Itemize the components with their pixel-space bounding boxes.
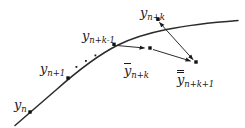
- diagram-canvas: [0, 0, 245, 128]
- label-ybar-n-plus-k: yn+k: [124, 62, 149, 78]
- point-y-n-plus-1: [66, 76, 69, 79]
- trajectory-diagram: yn yn+1 yn+k-1 yn+k yn+k yn+k+1: [0, 0, 245, 128]
- ellipsis-dot-1: [76, 66, 78, 68]
- label-y-n-plus-1: yn+1: [40, 60, 65, 76]
- label-y-n-plus-k-minus-1: yn+k-1: [82, 27, 115, 43]
- label-y-n-plus-k-subscript: n+k: [147, 12, 164, 22]
- label-ybar-n-plus-k-plus-1-subscript: n+k+1: [184, 79, 214, 89]
- label-y-n-plus-k-minus-1-subscript: n+k-1: [89, 35, 114, 45]
- label-y-n-plus-k: yn+k: [140, 4, 165, 20]
- label-y-n-subscript: n: [21, 104, 26, 114]
- label-ybar-n-plus-k-plus-1: yn+k+1: [177, 71, 214, 87]
- ellipsis-dot-3: [95, 55, 97, 57]
- label-y-n-plus-1-subscript: n+1: [47, 68, 65, 78]
- point-y-n: [28, 110, 31, 113]
- point-ybar-n-plus-k: [148, 46, 151, 49]
- ellipsis-dot-2: [85, 60, 87, 62]
- arrow-prev-to-ybar-nk: [117, 46, 145, 49]
- label-y-n: yn: [14, 96, 27, 112]
- point-ybar-n-plus-k-plus-1: [194, 60, 197, 63]
- label-ybar-n-plus-k-subscript: n+k: [131, 70, 148, 80]
